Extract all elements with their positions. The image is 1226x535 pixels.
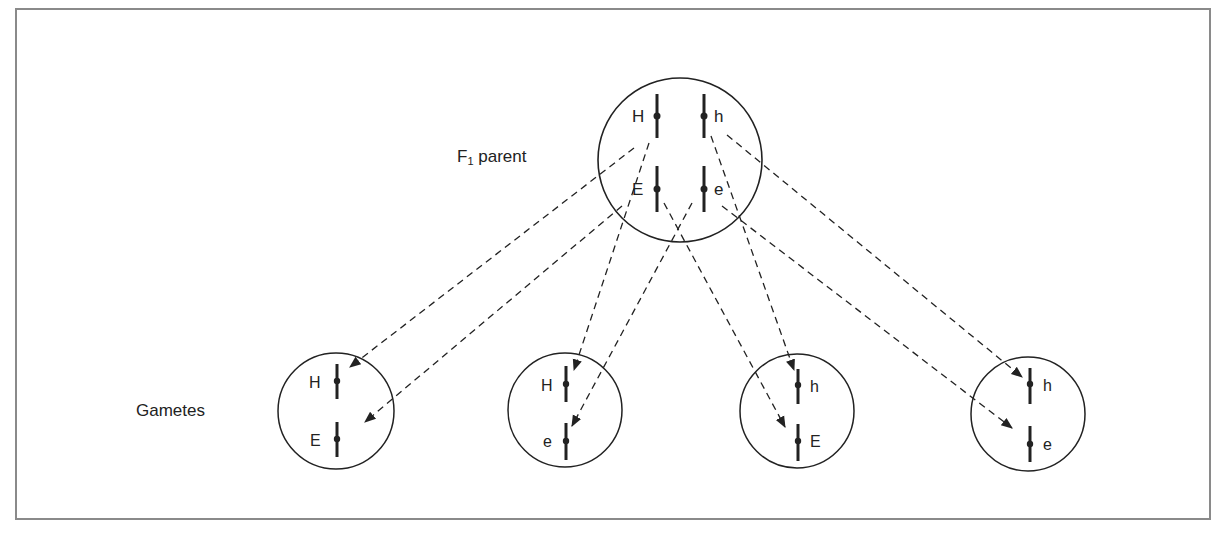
meiosis-diagram: F1 parent Gametes H h E e	[0, 0, 1226, 535]
arrow-E-to-gamete-1	[365, 206, 622, 422]
chromosome-e: e	[701, 166, 724, 212]
arrow-e-to-gamete-4	[722, 206, 1012, 428]
svg-text:H: H	[309, 374, 321, 391]
svg-text:H: H	[541, 377, 553, 394]
arrow-E-to-gamete-3	[664, 203, 785, 427]
chromosome-E: E	[632, 166, 661, 212]
segregation-arrows	[350, 135, 1022, 428]
svg-text:h: h	[1043, 377, 1052, 394]
arrow-H-to-gamete-1	[350, 148, 634, 367]
svg-text:h: h	[714, 107, 723, 126]
arrow-h-to-gamete-4	[727, 135, 1022, 377]
svg-text:e: e	[714, 180, 723, 199]
gamete-cell-2: H e	[508, 353, 622, 467]
svg-text:h: h	[810, 378, 819, 395]
svg-text:e: e	[1043, 436, 1052, 453]
arrow-H-to-gamete-2	[574, 143, 649, 370]
parent-label: F1 parent	[457, 147, 527, 167]
gamete-cell-1: H E	[278, 353, 394, 469]
parent-cell: H h E e	[598, 78, 762, 242]
svg-text:E: E	[810, 433, 821, 450]
svg-text:E: E	[310, 432, 321, 449]
chromosome-H: H	[632, 94, 661, 138]
arrow-e-to-gamete-2	[572, 203, 692, 426]
svg-text:e: e	[543, 433, 552, 450]
gametes-label: Gametes	[136, 401, 205, 420]
gamete-cell-4: h e	[971, 357, 1085, 471]
chromosome-h: h	[701, 94, 724, 138]
gamete-cell-3: h E	[740, 354, 854, 468]
arrow-h-to-gamete-3	[711, 136, 794, 370]
svg-text:H: H	[632, 107, 644, 126]
